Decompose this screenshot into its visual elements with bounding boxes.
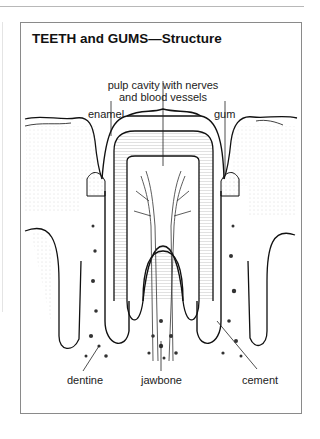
label-pulp-cavity: pulp cavity with nerves and blood vessel… bbox=[93, 79, 233, 103]
label-cement: cement bbox=[242, 374, 278, 386]
right-tooth bbox=[224, 116, 297, 345]
label-dentine: dentine bbox=[67, 374, 103, 386]
label-jawbone: jawbone bbox=[141, 374, 182, 386]
left-tooth bbox=[25, 117, 102, 348]
label-enamel: enamel bbox=[88, 108, 124, 120]
label-gum: gum bbox=[214, 108, 235, 120]
left-margin-line bbox=[2, 22, 3, 312]
top-divider bbox=[0, 6, 304, 7]
figure-frame: TEETH and GUMS—Structure bbox=[20, 22, 302, 414]
